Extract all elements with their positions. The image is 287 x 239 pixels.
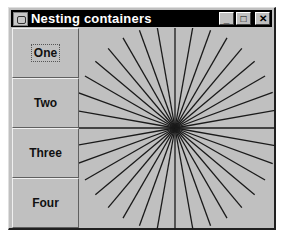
button-label: Two [32, 95, 59, 111]
minimize-button[interactable]: _ [219, 12, 234, 25]
window-controls: _ □ ✕ [219, 12, 270, 25]
maximize-button[interactable]: □ [236, 12, 251, 25]
button-two[interactable]: Two [12, 78, 79, 128]
drawing-canvas [79, 28, 272, 226]
button-one[interactable]: One [12, 28, 79, 78]
java-cup-icon[interactable] [13, 12, 28, 26]
button-four[interactable]: Four [12, 178, 79, 228]
title-bar[interactable]: Nesting containers _ □ ✕ [11, 10, 272, 27]
window-title: Nesting containers [31, 11, 152, 26]
button-panel: One Two Three Four [12, 28, 79, 228]
content-pane: One Two Three Four [11, 28, 272, 226]
button-label: Three [27, 145, 64, 161]
button-label: Four [30, 195, 61, 211]
button-label: One [32, 45, 59, 61]
app-window: Nesting containers _ □ ✕ One Two Three F… [8, 7, 276, 230]
button-three[interactable]: Three [12, 128, 79, 178]
close-button[interactable]: ✕ [255, 12, 270, 25]
starburst-drawing [79, 28, 275, 229]
